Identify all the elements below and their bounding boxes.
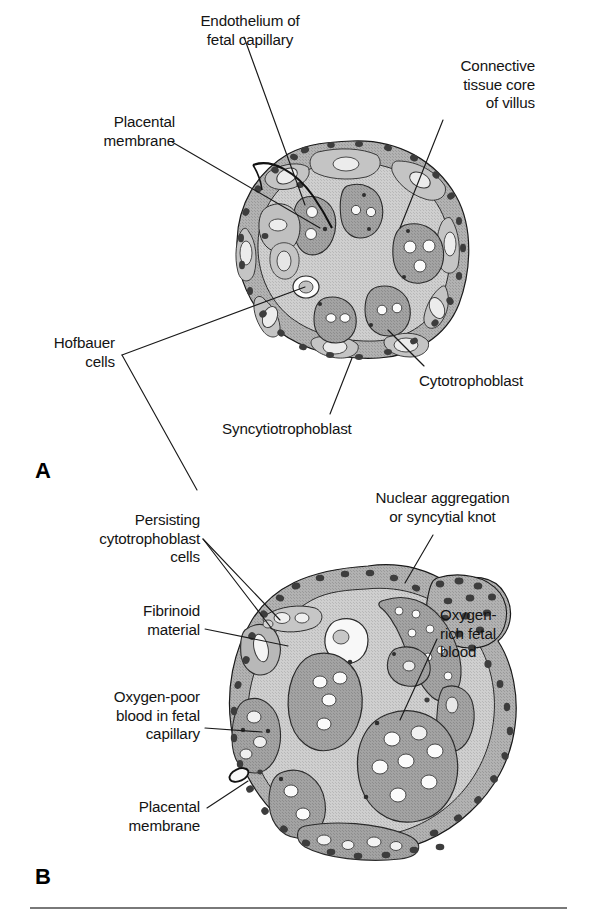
panel-letter-a: A (35, 458, 51, 484)
label-placental-membrane-a: Placental membrane (35, 113, 175, 150)
villus-cross-section-early (236, 141, 469, 360)
hofbauer-cell-a (293, 276, 319, 298)
panel-letter-b: B (35, 864, 51, 890)
label-nuclear-aggregation-or-syncytial-knot: Nuclear aggregation or syncytial knot (325, 489, 560, 526)
label-fibrinoid-material: Fibrinoid material (55, 602, 200, 639)
leader-hofbauer-lower (122, 355, 197, 490)
fetal-capillary (340, 184, 383, 238)
fetal-capillary-large-oxygen-rich (357, 711, 457, 822)
label-connective-tissue-core-of-villus: Connective tissue core of villus (380, 57, 535, 113)
label-oxygen-rich-fetal-blood: Oxygen- rich fetal blood (440, 606, 575, 662)
label-cytotrophoblast: Cytotrophoblast (419, 372, 594, 391)
leader-persisting-cytotrophoblast-b (203, 539, 272, 629)
label-persisting-cytotrophoblast-cells: Persisting cytotrophoblast cells (35, 511, 200, 567)
label-placental-membrane-b: Placental membrane (55, 798, 200, 835)
fetal-capillary (365, 286, 410, 336)
label-oxygen-poor-blood-in-fetal-capillary: Oxygen-poor blood in fetal capillary (20, 688, 200, 744)
core-lobes-a (270, 243, 299, 279)
figure-root: Endothelium of fetal capillary Connectiv… (0, 0, 597, 921)
fetal-capillary (288, 653, 362, 750)
leader-syncytiotrophoblast (330, 358, 352, 414)
leader-placental-membrane-b (207, 781, 248, 808)
fetal-capillary (314, 297, 356, 343)
leader-persisting-cytotrophoblast-a (203, 539, 280, 620)
label-hofbauer-cells: Hofbauer cells (10, 334, 115, 371)
label-endothelium-of-fetal-capillary: Endothelium of fetal capillary (160, 12, 340, 49)
label-syncytiotrophoblast: Syncytiotrophoblast (222, 420, 442, 439)
fibrinoid-patch (241, 624, 281, 675)
fetal-capillary (393, 224, 444, 283)
